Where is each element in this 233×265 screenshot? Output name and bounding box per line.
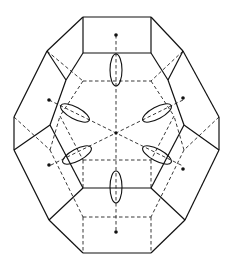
diagram-canvas — [0, 0, 233, 265]
visible-edge — [185, 150, 219, 220]
hidden-edge — [14, 117, 50, 150]
visible-edge — [151, 188, 185, 220]
face-center-dot — [47, 98, 51, 102]
hidden-edge — [151, 51, 183, 81]
visible-edge — [168, 80, 184, 125]
hidden-edge — [47, 51, 83, 81]
face-center-dot — [47, 163, 51, 167]
hidden-edges — [14, 51, 219, 253]
center-dot — [114, 131, 117, 134]
visible-edge — [151, 53, 168, 80]
visible-edge — [14, 51, 47, 117]
hidden-edge — [151, 150, 184, 217]
visible-edge — [183, 51, 219, 117]
face-center-dot — [114, 33, 118, 37]
hidden-edge — [60, 116, 83, 160]
visible-edge — [49, 188, 83, 220]
visible-edge — [14, 150, 49, 220]
visible-edge — [184, 125, 219, 150]
face-center-dot — [181, 96, 185, 100]
visible-edges — [14, 17, 219, 253]
face-center-dot — [181, 167, 185, 171]
visible-edge — [49, 220, 83, 253]
hidden-edge — [184, 117, 219, 150]
hidden-edge — [50, 150, 83, 217]
bond-ellipse — [140, 100, 174, 126]
visible-edge — [50, 80, 66, 125]
polyhedron-diagram — [0, 0, 233, 265]
visible-edge — [151, 220, 185, 253]
hidden-edge — [151, 116, 174, 160]
visible-edge — [47, 51, 66, 80]
visible-edge — [50, 125, 83, 188]
face-center-dot — [114, 230, 118, 234]
visible-edge — [47, 17, 83, 51]
visible-edge — [66, 53, 83, 80]
visible-edge — [168, 51, 183, 80]
visible-edge — [151, 17, 183, 51]
visible-edge — [14, 125, 50, 150]
visible-edge — [151, 125, 184, 188]
